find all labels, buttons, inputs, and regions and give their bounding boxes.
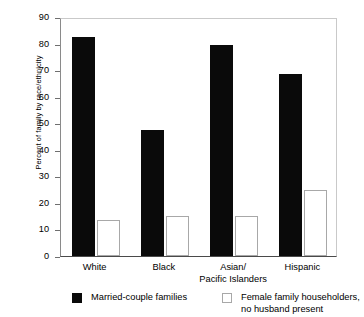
x-axis-category-label-line: Hispanic <box>285 262 321 272</box>
legend-item: Female family householders,no husband pr… <box>222 292 360 315</box>
y-axis-tick-label: 40 <box>39 145 49 156</box>
bar-married-couple <box>210 45 233 256</box>
y-axis-tick-label: 10 <box>39 224 49 235</box>
chart-legend: Married-couple familiesFemale family hou… <box>0 292 352 317</box>
legend-swatch-hollow <box>222 293 232 303</box>
legend-swatch-filled <box>72 293 82 303</box>
bar-married-couple <box>141 130 164 256</box>
plot-area <box>60 18 337 257</box>
legend-label: Married-couple families <box>91 292 187 304</box>
bar-female-householder <box>235 216 258 256</box>
bar-female-householder <box>97 220 120 256</box>
y-axis-tick-label: 60 <box>39 92 49 103</box>
legend-label-line: Married-couple families <box>91 292 187 302</box>
x-axis-category-label-line: Pacific Islanders <box>163 274 303 286</box>
bar-married-couple <box>279 74 302 256</box>
bar-married-couple <box>72 37 95 256</box>
legend-label-line: Female family householders, <box>241 292 360 302</box>
y-axis-tick-label: 0 <box>44 251 49 262</box>
bar-female-householder <box>166 216 189 256</box>
y-axis-tick-label: 50 <box>39 118 49 129</box>
y-axis-tick-mark <box>55 257 60 258</box>
legend-label-line: no husband present <box>241 304 360 316</box>
x-axis-category-label: Hispanic <box>232 262 364 274</box>
legend-item: Married-couple families <box>72 292 187 304</box>
bar-female-householder <box>304 190 327 256</box>
y-axis-tick-label: 80 <box>39 39 49 50</box>
legend-label: Female family householders,no husband pr… <box>241 292 360 315</box>
y-axis-tick-label: 90 <box>39 12 49 23</box>
y-axis-tick-label: 30 <box>39 171 49 182</box>
y-axis-tick-label: 70 <box>39 65 49 76</box>
y-axis-tick-label: 20 <box>39 198 49 209</box>
